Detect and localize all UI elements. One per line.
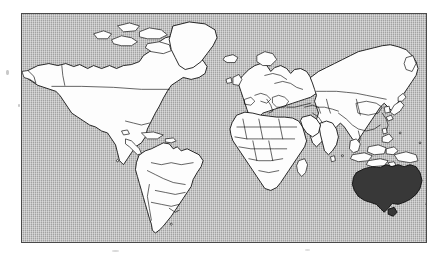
indochina-peninsula [349, 139, 360, 153]
tasmania-fill [388, 207, 397, 216]
landmass-africa[interactable] [230, 112, 307, 190]
island-pacific [419, 142, 421, 144]
sri-lanka [330, 156, 335, 162]
africa-outline [230, 112, 307, 190]
island-indian-ocean [341, 155, 343, 157]
kyushu [386, 115, 393, 121]
sulawesi [386, 147, 398, 155]
scan-speckle [112, 250, 119, 252]
world-map-svg[interactable] [22, 14, 426, 242]
scan-speckle [305, 249, 310, 251]
figure-root: World map with Australia highlighted [0, 0, 446, 257]
korea [384, 106, 390, 113]
new-guinea [394, 152, 418, 163]
arctic-island-small [94, 31, 112, 39]
banks-island [118, 23, 140, 32]
hispaniola [165, 138, 176, 143]
galapagos-island [116, 160, 118, 162]
victoria-island [112, 36, 138, 46]
scan-speckle [18, 104, 20, 107]
island-pacific [399, 132, 401, 134]
page-title: World map with Australia highlighted [0, 21, 1, 22]
landmass-arctic-islands[interactable] [94, 23, 172, 54]
landmass-southeast-asia[interactable] [349, 134, 418, 167]
europe-outline [239, 64, 319, 120]
landmass-europe[interactable] [226, 52, 319, 119]
falkland-islands [170, 223, 172, 225]
australia-fill [352, 165, 422, 213]
philippines [382, 134, 393, 143]
madagascar [297, 159, 308, 177]
landmass-south-america[interactable] [135, 143, 203, 233]
landmass-australia-highlighted[interactable] [352, 165, 422, 217]
ellesmere-island [139, 28, 167, 39]
taiwan [382, 128, 387, 134]
scandinavia [257, 52, 277, 66]
scan-speckle [6, 70, 9, 75]
world-map-panel[interactable] [21, 13, 427, 243]
borneo [367, 145, 386, 155]
iceland [223, 55, 238, 63]
south-america-outline [135, 143, 203, 233]
ireland [226, 77, 232, 83]
